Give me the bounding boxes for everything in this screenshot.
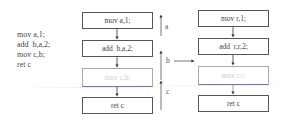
label-a: a [165,22,168,31]
label-c: c [166,87,169,96]
arrows-layer [0,0,289,123]
label-b: b [166,56,170,65]
